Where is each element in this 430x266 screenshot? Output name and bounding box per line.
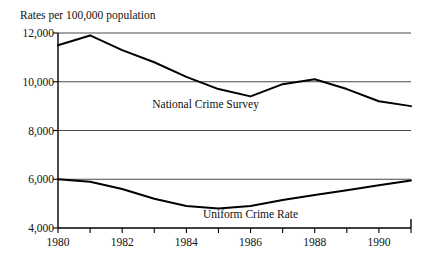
chart-container: Rates per 100,000 population 4,0006,0008… [0, 0, 430, 266]
x-tick-label: 1980 [47, 236, 70, 248]
x-tick-label: 1990 [367, 236, 390, 248]
x-tick-label: 1988 [303, 236, 326, 248]
x-tick-label: 1982 [111, 236, 134, 248]
x-axis-label-list: 198019821984198619881990 [0, 0, 430, 266]
x-tick-label: 1986 [239, 236, 262, 248]
series-annotation-2: Uniform Crime Rate [203, 208, 298, 221]
x-tick-label: 1984 [175, 236, 198, 248]
series-annotation-1: National Crime Survey [152, 98, 259, 111]
